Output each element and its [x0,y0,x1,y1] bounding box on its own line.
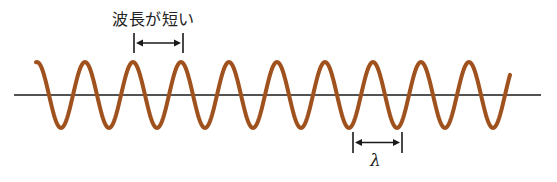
lambda-label: λ [370,150,381,170]
wave-diagram [0,0,557,182]
wavelength-marker-top [134,33,183,53]
short-wavelength-label: 波長が短い [112,6,195,30]
